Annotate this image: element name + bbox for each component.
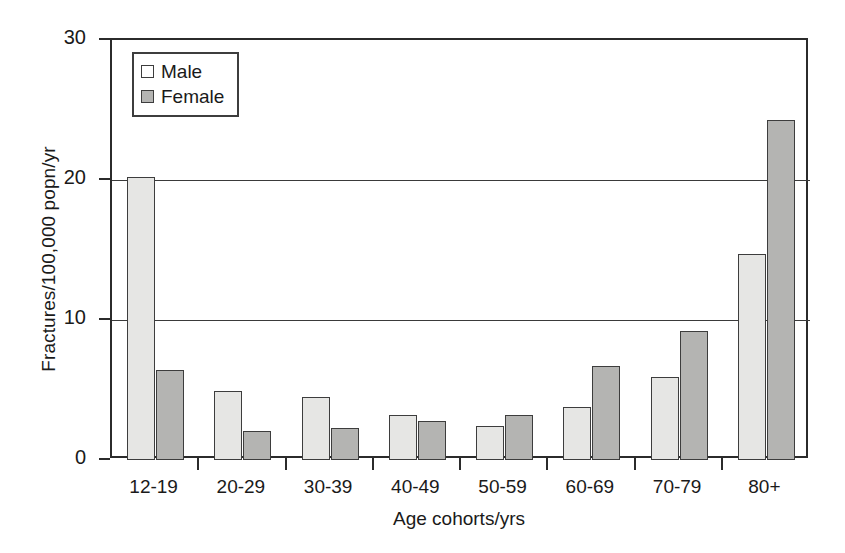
legend-label-male: Male xyxy=(161,62,202,81)
y-tick-label-20: 20 xyxy=(26,167,86,187)
bar-12-19-male xyxy=(127,177,155,460)
bar-50-59-female xyxy=(505,415,533,460)
x-tick-1 xyxy=(197,458,199,470)
bar-12-19-female xyxy=(156,370,184,460)
x-tick-6 xyxy=(634,458,636,470)
x-tick-label-12-19: 12-19 xyxy=(110,476,197,498)
y-tick-label-0: 0 xyxy=(26,447,86,467)
legend-label-female: Female xyxy=(161,87,224,106)
legend-item-female: Female xyxy=(141,84,224,109)
bar-40-49-male xyxy=(389,415,417,460)
bar-70-79-female xyxy=(680,331,708,460)
bar-60-69-female xyxy=(592,366,620,460)
legend-swatch-female-icon xyxy=(141,90,154,103)
x-axis-title: Age cohorts/yrs xyxy=(110,508,808,530)
x-tick-label-20-29: 20-29 xyxy=(197,476,284,498)
legend-swatch-male-icon xyxy=(141,65,154,78)
x-tick-4 xyxy=(459,458,461,470)
x-tick-label-60-69: 60-69 xyxy=(546,476,633,498)
x-tick-label-40-49: 40-49 xyxy=(372,476,459,498)
bar-chart-figure: Fractures/100,000 popn/yr 0102030 Male F… xyxy=(0,0,845,553)
bar-20-29-female xyxy=(243,431,271,460)
x-tick-7 xyxy=(721,458,723,470)
x-tick-label-70-79: 70-79 xyxy=(634,476,721,498)
y-tick-10 xyxy=(99,318,110,320)
y-tick-label-30: 30 xyxy=(26,27,86,47)
bar-70-79-male xyxy=(651,377,679,460)
gridline-10 xyxy=(112,320,810,321)
bar-80plus-male xyxy=(738,254,766,460)
y-tick-label-10: 10 xyxy=(26,307,86,327)
legend: Male Female xyxy=(132,52,239,117)
plot-area: Male Female xyxy=(110,38,808,458)
bar-50-59-male xyxy=(476,426,504,460)
y-tick-0 xyxy=(99,458,110,460)
gridline-20 xyxy=(112,180,810,181)
bar-60-69-male xyxy=(563,407,591,460)
bar-30-39-male xyxy=(302,397,330,460)
legend-item-male: Male xyxy=(141,59,224,84)
x-tick-3 xyxy=(372,458,374,470)
y-axis-title: Fractures/100,000 popn/yr xyxy=(38,109,60,409)
bar-30-39-female xyxy=(331,428,359,460)
bar-20-29-male xyxy=(214,391,242,460)
y-tick-30 xyxy=(99,38,110,40)
x-tick-2 xyxy=(285,458,287,470)
y-tick-20 xyxy=(99,178,110,180)
x-tick-label-80plus: 80+ xyxy=(721,476,808,498)
x-tick-5 xyxy=(546,458,548,470)
x-tick-label-30-39: 30-39 xyxy=(285,476,372,498)
bar-80plus-female xyxy=(767,120,795,460)
x-tick-label-50-59: 50-59 xyxy=(459,476,546,498)
bar-40-49-female xyxy=(418,421,446,460)
